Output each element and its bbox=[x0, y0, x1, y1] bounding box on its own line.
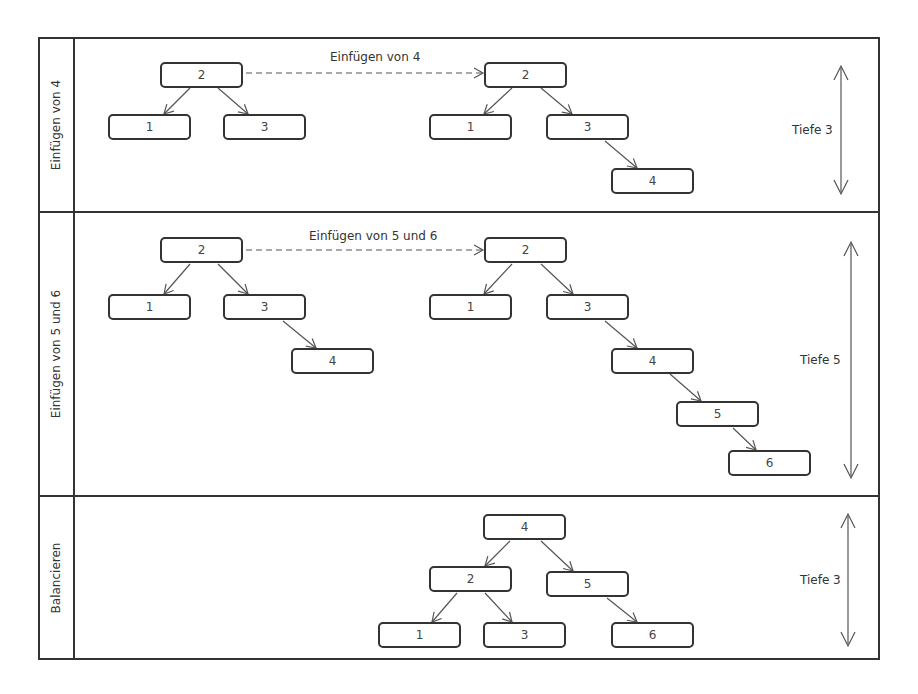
edge-arrow bbox=[283, 321, 316, 348]
transition-label: Einfügen von 4 bbox=[330, 50, 420, 64]
tree-node: 3 bbox=[546, 114, 629, 140]
edge-arrow bbox=[541, 264, 573, 294]
edge-arrow bbox=[164, 88, 190, 114]
edge-arrow bbox=[485, 541, 510, 566]
tree-node: 1 bbox=[108, 294, 191, 320]
tree-node: 1 bbox=[429, 294, 512, 320]
tree-node: 2 bbox=[160, 62, 243, 88]
tree-node: 5 bbox=[676, 401, 759, 427]
edge-arrow bbox=[541, 541, 573, 571]
tree-node: 1 bbox=[429, 114, 512, 140]
tree-node: 4 bbox=[611, 348, 694, 374]
tree-node: 2 bbox=[484, 62, 567, 88]
depth-label: Tiefe 5 bbox=[800, 353, 841, 367]
edge-arrow bbox=[485, 593, 512, 622]
edge-arrow bbox=[733, 428, 756, 450]
edge-arrow bbox=[605, 141, 637, 168]
tree-node: 3 bbox=[546, 294, 629, 320]
edge-arrow bbox=[218, 88, 248, 114]
edge-arrow bbox=[541, 88, 572, 114]
edge-arrow bbox=[607, 598, 637, 622]
edge-arrow bbox=[218, 264, 248, 294]
depth-label: Tiefe 3 bbox=[800, 573, 841, 587]
tree-node: 3 bbox=[223, 294, 306, 320]
transition-label: Einfügen von 5 und 6 bbox=[309, 229, 437, 243]
edge-arrow bbox=[432, 593, 457, 622]
tree-node: 5 bbox=[546, 571, 629, 597]
tree-node: 6 bbox=[611, 622, 694, 648]
tree-node: 1 bbox=[108, 114, 191, 140]
edge-arrow bbox=[164, 264, 190, 294]
tree-node: 4 bbox=[291, 348, 374, 374]
depth-label: Tiefe 3 bbox=[792, 123, 833, 137]
tree-node: 3 bbox=[223, 114, 306, 140]
tree-node: 4 bbox=[611, 168, 694, 194]
tree-node: 6 bbox=[728, 450, 811, 476]
tree-node: 2 bbox=[484, 237, 567, 263]
tree-node: 1 bbox=[378, 622, 461, 648]
tree-node: 3 bbox=[483, 622, 566, 648]
edge-arrow bbox=[605, 321, 637, 348]
edge-arrow bbox=[484, 264, 512, 294]
edge-arrow bbox=[670, 374, 701, 401]
tree-node: 2 bbox=[429, 566, 512, 592]
tree-node: 4 bbox=[483, 514, 566, 540]
tree-node: 2 bbox=[160, 237, 243, 263]
edge-arrow bbox=[484, 88, 512, 114]
